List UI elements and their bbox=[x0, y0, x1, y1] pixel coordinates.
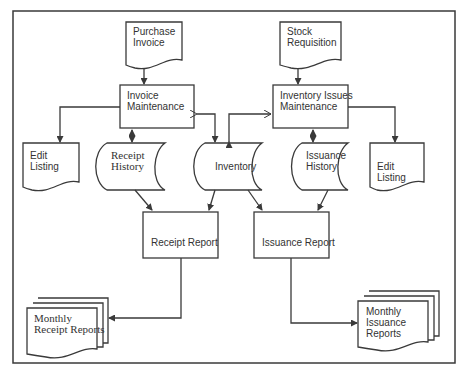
edit-listing-left-label: Edit Listing bbox=[30, 150, 59, 172]
label-line: Invoice bbox=[133, 37, 175, 48]
invoice-maintenance-label: Invoice Maintenance bbox=[127, 90, 184, 112]
label-line: Stock bbox=[287, 26, 336, 37]
label-line: Maintenance bbox=[280, 101, 353, 112]
label-line: Issuance bbox=[366, 317, 406, 328]
stock-requisition-label: Stock Requisition bbox=[287, 26, 336, 48]
label-line: Monthly bbox=[366, 306, 406, 317]
label-line: Receipt Reports bbox=[34, 324, 105, 335]
label-line: Edit bbox=[30, 150, 59, 161]
label-line: History bbox=[306, 161, 346, 172]
label-line: Requisition bbox=[287, 37, 336, 48]
edit-listing-right-label: Edit Listing bbox=[377, 161, 406, 183]
issuance-history-label: Issuance History bbox=[306, 150, 346, 172]
monthly-receipt-reports-label: Monthly Receipt Reports bbox=[34, 313, 105, 335]
receipt-report-process bbox=[143, 212, 218, 258]
label-line: Edit bbox=[377, 161, 406, 172]
monthly-issuance-reports-label: Monthly Issuance Reports bbox=[366, 306, 406, 339]
label-line: Listing bbox=[377, 172, 406, 183]
label-line: History bbox=[111, 161, 145, 172]
label-line: Inventory Issues bbox=[280, 90, 353, 101]
issuance-report-label: Issuance Report bbox=[262, 237, 335, 248]
label-line: Reports bbox=[366, 328, 406, 339]
label-line: Purchase bbox=[133, 26, 175, 37]
receipt-report-label: Receipt Report bbox=[151, 237, 218, 248]
issuance-report-process bbox=[254, 212, 329, 258]
inventory-label: Inventory bbox=[215, 161, 256, 172]
label-line: Listing bbox=[30, 161, 59, 172]
receipt-history-label: Receipt History bbox=[111, 150, 145, 172]
inventory-issues-maintenance-label: Inventory Issues Maintenance bbox=[280, 90, 353, 112]
label-line: Invoice bbox=[127, 90, 184, 101]
label-line: Issuance bbox=[306, 150, 346, 161]
purchase-invoice-label: Purchase Invoice bbox=[133, 26, 175, 48]
label-line: Maintenance bbox=[127, 101, 184, 112]
